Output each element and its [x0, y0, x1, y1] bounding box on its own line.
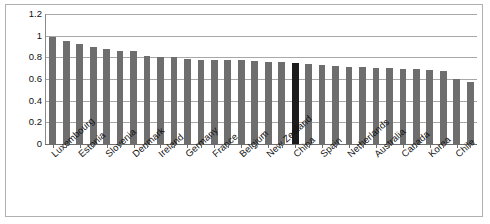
x-tick-mark	[268, 144, 269, 148]
x-tick-mark	[214, 144, 215, 148]
x-tick-mark	[107, 144, 108, 148]
x-tick-mark	[53, 144, 54, 148]
x-tick-mark	[430, 144, 431, 148]
x-tick-mark	[134, 144, 135, 148]
x-tick-mark	[160, 144, 161, 148]
x-tick-mark	[416, 144, 417, 148]
x-tick-mark	[336, 144, 337, 148]
x-tick-mark	[228, 144, 229, 148]
x-tick-mark	[389, 144, 390, 148]
x-tick-mark	[93, 144, 94, 148]
x-tick-mark	[187, 144, 188, 148]
x-tick-mark	[120, 144, 121, 148]
x-tick-mark	[376, 144, 377, 148]
x-tick-mark	[241, 144, 242, 148]
x-tick-mark	[457, 144, 458, 148]
chart-screenshot: 00.20.40.60.811.2 LuxembourgEstoniaSlove…	[0, 0, 490, 224]
x-tick-mark	[403, 144, 404, 148]
x-tick-mark	[295, 144, 296, 148]
x-axis-tick-labels: LuxembourgEstoniaSloveniaDenmarkIrelandG…	[0, 0, 490, 224]
x-tick-mark	[309, 144, 310, 148]
x-tick-mark	[443, 144, 444, 148]
x-tick-mark	[201, 144, 202, 148]
x-tick-mark	[66, 144, 67, 148]
x-tick-mark	[80, 144, 81, 148]
x-tick-mark	[349, 144, 350, 148]
x-tick-mark	[147, 144, 148, 148]
x-tick-mark	[322, 144, 323, 148]
x-tick-mark	[255, 144, 256, 148]
x-tick-mark	[174, 144, 175, 148]
x-tick-mark	[363, 144, 364, 148]
x-tick-mark	[282, 144, 283, 148]
x-tick-mark	[470, 144, 471, 148]
